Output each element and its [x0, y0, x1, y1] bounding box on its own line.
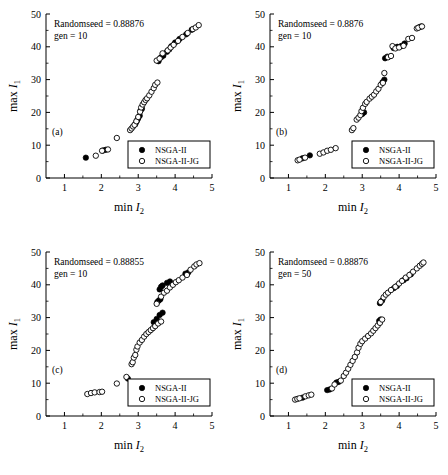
legend-label: NSGA-II-JG — [379, 394, 423, 404]
data-point — [160, 51, 165, 56]
scatter-plot-d: 0102030405012345min I2max I1Randomseed =… — [224, 238, 448, 475]
scatter-plot-b: 0102030405012345min I2max I1Randomseed =… — [224, 0, 448, 237]
data-point — [401, 43, 406, 48]
data-point — [180, 34, 185, 39]
legend-label: NSGA-II — [379, 383, 411, 393]
x-tick-label: 4 — [397, 182, 402, 193]
svg-text:max I1: max I1 — [230, 318, 246, 350]
y-tick-label: 10 — [31, 378, 41, 389]
panel-label: (d) — [276, 365, 287, 376]
y-tick-label: 20 — [255, 107, 265, 118]
legend: NSGA-IINSGA-II-JG — [128, 379, 210, 406]
figure-container: 0102030405012345min I2max I1Randomseed =… — [0, 0, 448, 475]
data-point — [114, 135, 119, 140]
series-nsga-ii-jg — [93, 22, 201, 158]
svg-text:max I1: max I1 — [6, 318, 22, 350]
data-point — [157, 56, 162, 61]
x-axis-ticks: 12345 — [286, 174, 439, 193]
y-axis-ticks: 01020304050 — [255, 247, 274, 422]
legend: NSGA-IINSGA-II-JG — [352, 379, 434, 406]
scatter-plot-c: 0102030405012345min I2max I1Randomseed =… — [0, 238, 224, 475]
y-tick-label: 10 — [255, 140, 265, 151]
legend-label: NSGA-II — [155, 383, 187, 393]
data-point — [197, 260, 202, 265]
x-tick-label: 3 — [136, 182, 141, 193]
y-axis-label: max I1 — [230, 318, 246, 350]
data-point — [382, 70, 387, 75]
generation-annotation: gen = 10 — [278, 31, 312, 41]
data-point — [332, 382, 337, 387]
data-point — [171, 42, 176, 47]
svg-text:min I2: min I2 — [114, 200, 144, 216]
legend: NSGA-IINSGA-II-JG — [352, 141, 434, 168]
data-point — [421, 260, 426, 265]
legend-marker-filled-circle — [139, 385, 144, 390]
panel-annotation: Randomseed = 0.88876gen = 50 — [278, 257, 368, 279]
legend-marker-open-circle — [139, 158, 144, 163]
y-tick-label: 0 — [36, 173, 41, 184]
data-point — [333, 145, 338, 150]
data-point — [93, 153, 98, 158]
panel-annotation: Randomseed = 0.88876gen = 10 — [54, 19, 144, 41]
legend-label: NSGA-II-JG — [379, 156, 423, 166]
x-tick-label: 2 — [99, 420, 104, 431]
data-point — [409, 35, 414, 40]
data-point — [379, 317, 384, 322]
y-axis-ticks: 01020304050 — [31, 247, 50, 422]
legend-label: NSGA-II-JG — [155, 394, 199, 404]
y-tick-label: 10 — [255, 378, 265, 389]
y-tick-label: 20 — [31, 107, 41, 118]
y-tick-label: 40 — [255, 279, 265, 290]
x-tick-label: 1 — [62, 182, 67, 193]
x-tick-label: 3 — [136, 420, 141, 431]
chart-panel-d: 0102030405012345min I2max I1Randomseed =… — [224, 238, 448, 475]
legend-label: NSGA-II — [155, 145, 187, 155]
x-axis-label: min I2 — [114, 200, 144, 216]
chart-panel-a: 0102030405012345min I2max I1Randomseed =… — [0, 0, 224, 237]
y-tick-label: 20 — [255, 345, 265, 356]
randomseed-annotation: Randomseed = 0.88876 — [54, 19, 144, 29]
x-tick-label: 1 — [62, 420, 67, 431]
y-axis-ticks: 01020304050 — [31, 9, 50, 184]
x-tick-label: 2 — [99, 182, 104, 193]
data-point — [388, 53, 393, 58]
data-point — [133, 352, 138, 357]
panel-label: (b) — [276, 127, 287, 138]
randomseed-annotation: Randomseed = 0.88876 — [278, 257, 368, 267]
generation-annotation: gen = 10 — [54, 269, 88, 279]
panel-label: (a) — [52, 127, 63, 138]
y-tick-label: 0 — [260, 173, 265, 184]
y-tick-label: 50 — [31, 9, 41, 20]
x-tick-label: 5 — [434, 182, 439, 193]
legend-marker-open-circle — [139, 396, 144, 401]
x-tick-label: 4 — [173, 420, 178, 431]
x-tick-label: 2 — [323, 420, 328, 431]
x-tick-label: 1 — [286, 420, 291, 431]
data-points — [83, 22, 201, 160]
y-tick-label: 0 — [260, 411, 265, 422]
randomseed-annotation: Randomseed = 0.8876 — [278, 19, 364, 29]
data-point — [114, 381, 119, 386]
data-point — [380, 80, 385, 85]
data-point — [297, 396, 302, 401]
x-tick-label: 3 — [360, 420, 365, 431]
data-point — [83, 155, 88, 160]
legend-marker-open-circle — [363, 158, 368, 163]
data-point — [196, 22, 201, 27]
x-tick-label: 2 — [323, 182, 328, 193]
data-point — [351, 125, 356, 130]
legend-marker-filled-circle — [139, 147, 144, 152]
series-nsga-ii — [83, 27, 194, 160]
y-axis-label: max I1 — [230, 80, 246, 112]
svg-text:min I2: min I2 — [338, 438, 368, 454]
data-point — [175, 38, 180, 43]
x-tick-label: 5 — [434, 420, 439, 431]
x-tick-label: 1 — [286, 182, 291, 193]
panel-annotation: Randomseed = 0.88855gen = 10 — [54, 257, 144, 279]
svg-text:min I2: min I2 — [114, 438, 144, 454]
y-tick-label: 50 — [255, 247, 265, 258]
data-point — [302, 155, 307, 160]
y-tick-label: 40 — [31, 279, 41, 290]
y-tick-label: 40 — [255, 41, 265, 52]
generation-annotation: gen = 10 — [54, 31, 88, 41]
